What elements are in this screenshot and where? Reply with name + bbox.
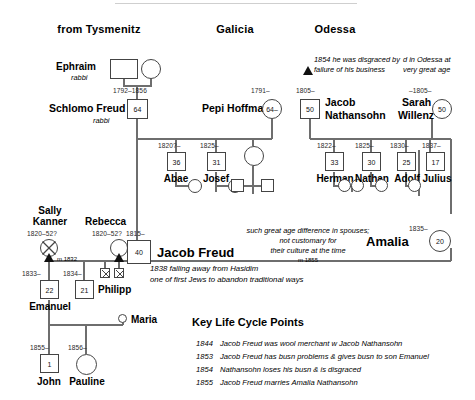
age-jacob-freud: 40 (128, 249, 150, 256)
years-john: 1855– (30, 345, 49, 352)
symbol-male-herman: 33 (325, 152, 344, 171)
years-julius: 1837– (422, 143, 441, 150)
label-sarah-willenz-line1: Sarah (402, 97, 431, 108)
age-schlomo: 64 (128, 106, 147, 113)
label-john: John (30, 377, 68, 387)
age-julius: 17 (427, 158, 444, 165)
years-adolf: 1830– (390, 143, 409, 150)
years-schlomo: 1792–1856 (113, 88, 147, 95)
symbol-male-daughter-child-2 (261, 179, 274, 192)
symbol-male-josef: 31 (207, 152, 226, 171)
label-jacob-nathansohn-line1: Jacob (325, 97, 355, 108)
symbol-male-schlomo-freud: 64 (127, 99, 148, 119)
years-sally: 1820–52? (27, 231, 57, 238)
age-philipp: 21 (76, 286, 93, 293)
symbol-female-sarah-willenz: 50 (432, 99, 452, 119)
annotation-disgrace-line1: 1854 he was disgraced by (314, 56, 400, 63)
years-sarah-willenz: –1805– (409, 88, 432, 95)
years-abae: 1820?– (158, 143, 181, 150)
years-philipp: 1834– (63, 271, 82, 278)
age-john: 1 (41, 360, 58, 367)
triangle-marriage-marker-sally (44, 253, 54, 262)
age-sarah: 50 (433, 106, 451, 113)
symbol-male-adolf: 25 (397, 152, 416, 171)
annotation-marriage-1855: m 1855 (218, 257, 398, 263)
age-adolf: 25 (398, 158, 415, 165)
symbol-female-maria (118, 314, 127, 323)
symbol-female-pepi-hoffman: 64– (262, 99, 282, 119)
symbol-female-pauline (76, 354, 97, 375)
years-nathan: 1825– (355, 143, 374, 150)
symbol-male-philipp: 21 (75, 280, 94, 299)
label-ephraim: Ephraim (56, 62, 96, 72)
annotation-hasidim-line1: 1838 falling away from Hasidim (150, 265, 258, 273)
symbol-male-nathan: 30 (362, 152, 381, 171)
symbol-male-jacob-nathansohn: 50 (300, 99, 320, 119)
label-philipp: Philipp (98, 285, 131, 295)
symbol-male-jacob-freud: 40 (127, 240, 151, 264)
years-rebecca: 1820–52? (92, 231, 122, 238)
key-entry-year-4: 1855 (196, 379, 213, 387)
symbol-female-amalia: 20 (429, 230, 451, 252)
key-entry-text-1: Jacob Freud was wool merchant w Jacob Na… (220, 340, 402, 348)
annotation-died-odessa-line1: d in Odessa at (403, 56, 451, 63)
years-amalia: 1835– (409, 226, 428, 233)
age-jacob-nathansohn: 50 (301, 106, 319, 113)
years-pepi: 1791– (251, 88, 270, 95)
age-nathan: 30 (363, 158, 380, 165)
symbol-male-emanuel: 22 (40, 280, 59, 299)
label-sally-line2: Kanner (22, 217, 78, 227)
age-pepi: 64– (263, 106, 281, 113)
key-entry-year-3: 1854 (196, 366, 213, 374)
symbol-male-daughter-child-1 (231, 179, 244, 192)
years-emanuel: 1833– (22, 271, 41, 278)
annotation-died-odessa-line2: very great age (403, 66, 450, 73)
years-pauline: 1856– (68, 345, 87, 352)
label-julius: Julius (418, 174, 456, 184)
region-header-tysmenitz: from Tysmenitz (49, 24, 149, 35)
key-entry-text-2: Jacob Freud has busn problems & gives bu… (220, 353, 429, 361)
label-pauline: Pauline (65, 377, 109, 387)
age-herman: 33 (326, 158, 343, 165)
label-rebecca: Rebecca (85, 217, 126, 227)
key-entry-text-3: Nathansohn loses his busn & is disgraced (220, 366, 361, 374)
label-pepi-hoffman: Pepi Hoffman (202, 103, 270, 114)
symbol-deceased-child-2 (114, 268, 124, 278)
label-jacob-nathansohn-line2: Nathansohn (325, 110, 386, 121)
label-emanuel: Emanuel (24, 302, 76, 312)
genogram-canvas: from Tysmenitz Galicia Odessa Ephraim ra… (0, 0, 475, 400)
age-emanuel: 22 (41, 286, 58, 293)
age-abae: 36 (168, 158, 185, 165)
years-jacob-nathansohn: 1805– (296, 88, 315, 95)
triangle-death-marker-nathansohn (303, 66, 313, 75)
label-amalia: Amalia (366, 235, 409, 248)
symbol-male-abae: 36 (167, 152, 186, 171)
label-sarah-willenz-line2: Willenz (398, 110, 434, 121)
symbol-male-john: 1 (40, 354, 59, 373)
label-sally-line1: Sally (22, 206, 78, 216)
symbol-female-herman-child-1 (338, 179, 351, 192)
annotation-disgrace-line2: failure of his business (314, 66, 385, 73)
label-ephraim-role: rabbi (71, 74, 87, 81)
annotation-hasidim-line2: one of first Jews to abandon traditional… (150, 276, 303, 284)
symbol-female-ephraim-wife (141, 59, 161, 79)
region-header-odessa: Odessa (305, 24, 365, 35)
key-entry-year-2: 1853 (196, 353, 213, 361)
region-header-galicia: Galicia (205, 24, 265, 35)
symbol-male-julius: 17 (426, 152, 445, 171)
years-herman: 1822– (317, 143, 336, 150)
key-entry-year-1: 1844 (196, 340, 213, 348)
label-maria: Maria (131, 315, 157, 325)
symbol-female-freud-daughter (244, 146, 264, 166)
marriage-year-sally: m 1832 (57, 256, 77, 262)
age-josef: 31 (208, 158, 225, 165)
age-amalia: 20 (430, 238, 450, 245)
years-jacob-freud: 1815– (126, 231, 145, 238)
years-josef: 1825– (200, 143, 219, 150)
symbol-deceased-child-1 (100, 268, 110, 278)
label-schlomo-freud: Schlomo Freud (49, 103, 125, 114)
label-schlomo-role: rabbi (93, 117, 109, 124)
key-panel-title: Key Life Cycle Points (192, 317, 304, 328)
triangle-marriage-marker-rebecca (114, 253, 124, 262)
key-entry-text-4: Jacob Freud marries Amalia Nathansohn (220, 379, 358, 387)
